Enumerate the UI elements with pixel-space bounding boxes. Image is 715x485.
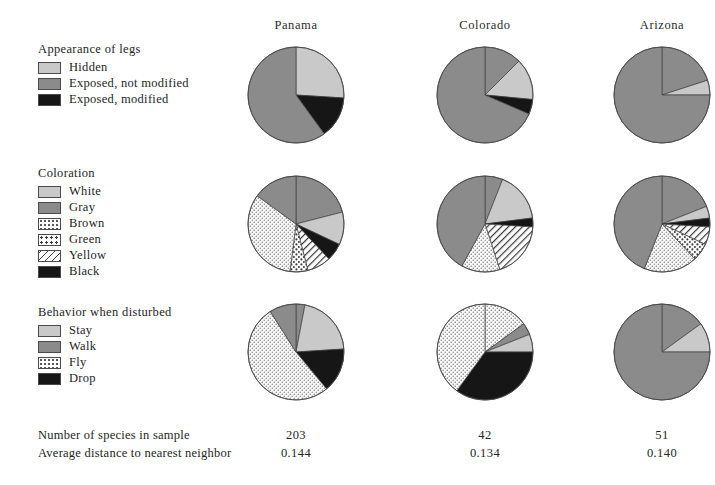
footer-value-species-panama: 203 (216, 428, 376, 443)
swatch-yellow-icon (38, 250, 61, 262)
legend-item-hidden: Hidden (38, 60, 189, 75)
swatch-gray-icon (38, 202, 61, 214)
legend-item-label: Stay (69, 323, 92, 338)
swatch-black-icon (38, 266, 61, 278)
legend-item-label: Drop (69, 371, 96, 386)
legend-item-label: Black (69, 264, 100, 279)
footer-value-species-colorado: 42 (405, 428, 565, 443)
swatch-black-icon (38, 373, 61, 385)
pie-chart-panama-row3 (245, 301, 347, 403)
legend-coloration: Coloration White Gray Brown Green Yellow… (38, 166, 106, 280)
swatch-light-gray-icon (38, 325, 61, 337)
pie-chart-arizona-row1 (611, 44, 713, 146)
swatch-dark-gray-icon (38, 341, 61, 353)
legend-item-black: Black (38, 264, 106, 279)
swatch-light-gray-icon (38, 62, 61, 74)
pie-chart-colorado-row1 (434, 44, 536, 146)
legend-appearance-of-legs: Appearance of legs Hidden Exposed, not m… (38, 42, 189, 108)
pie-slice-hidden (296, 47, 344, 98)
legend-item-green: Green (38, 232, 106, 247)
pie-chart-colorado-row2 (434, 173, 536, 275)
legend-item-brown: Brown (38, 216, 106, 231)
swatch-green-icon (38, 234, 61, 246)
legend-item-label: White (69, 184, 101, 199)
pie-chart-panama-row1 (245, 44, 347, 146)
legend-item-label: Exposed, modified (69, 92, 169, 107)
footer-value-distance-arizona: 0.140 (582, 446, 715, 461)
legend-item-gray: Gray (38, 200, 106, 215)
legend-title: Coloration (38, 166, 106, 181)
legend-item-label: Hidden (69, 60, 108, 75)
column-header-panama: Panama (216, 18, 376, 33)
pie-chart-arizona-row2 (611, 173, 713, 275)
legend-item-fly: Fly (38, 355, 172, 370)
legend-title: Behavior when disturbed (38, 305, 172, 320)
legend-item-label: Green (69, 232, 101, 247)
footer-label-species-count: Number of species in sample (38, 428, 190, 443)
legend-item-exposed-not-modified: Exposed, not modified (38, 76, 189, 91)
footer-value-distance-panama: 0.144 (216, 446, 376, 461)
pie-chart-panama-row2 (245, 173, 347, 275)
swatch-brown-icon (38, 218, 61, 230)
legend-title: Appearance of legs (38, 42, 189, 57)
legend-item-exposed-modified: Exposed, modified (38, 92, 189, 107)
swatch-dotted-icon (38, 357, 61, 369)
legend-item-label: Exposed, not modified (69, 76, 189, 91)
legend-item-label: Yellow (69, 248, 106, 263)
swatch-dark-gray-icon (38, 78, 61, 90)
footer-value-distance-colorado: 0.134 (405, 446, 565, 461)
legend-item-label: Fly (69, 355, 87, 370)
footer-label-average-distance: Average distance to nearest neighbor (38, 446, 231, 461)
column-header-arizona: Arizona (582, 18, 715, 33)
legend-item-stay: Stay (38, 323, 172, 338)
legend-item-drop: Drop (38, 371, 172, 386)
swatch-white-icon (38, 186, 61, 198)
legend-item-white: White (38, 184, 106, 199)
pie-chart-arizona-row3 (611, 301, 713, 403)
pie-chart-colorado-row3 (434, 301, 536, 403)
legend-item-yellow: Yellow (38, 248, 106, 263)
legend-item-walk: Walk (38, 339, 172, 354)
legend-item-label: Brown (69, 216, 105, 231)
legend-item-label: Walk (69, 339, 96, 354)
column-header-colorado: Colorado (405, 18, 565, 33)
legend-item-label: Gray (69, 200, 95, 215)
legend-behavior-when-disturbed: Behavior when disturbed Stay Walk Fly Dr… (38, 305, 172, 387)
swatch-black-icon (38, 94, 61, 106)
footer-value-species-arizona: 51 (582, 428, 715, 443)
